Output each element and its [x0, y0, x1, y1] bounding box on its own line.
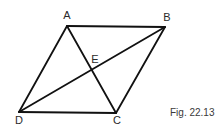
- segments-group: [19, 26, 165, 113]
- label-A: A: [63, 9, 71, 21]
- figure-caption: Fig. 22.13: [170, 107, 215, 118]
- side-DA: [19, 26, 67, 112]
- side-CD: [19, 112, 116, 113]
- rhombus-diagram: A B C D E Fig. 22.13: [0, 0, 224, 129]
- label-E: E: [91, 53, 98, 65]
- label-B: B: [163, 11, 170, 23]
- diagonal-BD: [19, 27, 165, 112]
- label-D: D: [15, 114, 23, 126]
- label-C: C: [113, 114, 121, 126]
- side-BC: [116, 27, 165, 113]
- side-AB: [67, 26, 165, 27]
